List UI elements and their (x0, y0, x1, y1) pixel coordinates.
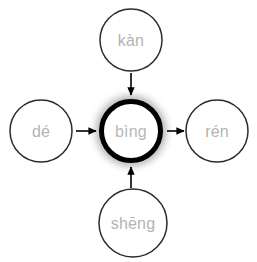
diagram-canvas: kàn dé bìng rén shēng (0, 0, 257, 262)
node-circle-bing[interactable] (102, 102, 161, 161)
node-circle-sheng[interactable] (99, 189, 167, 257)
node-circle-de[interactable] (10, 100, 72, 162)
node-circle-kan[interactable] (100, 9, 162, 71)
node-circle-ren[interactable] (186, 100, 248, 162)
diagram-graphics (0, 0, 257, 262)
